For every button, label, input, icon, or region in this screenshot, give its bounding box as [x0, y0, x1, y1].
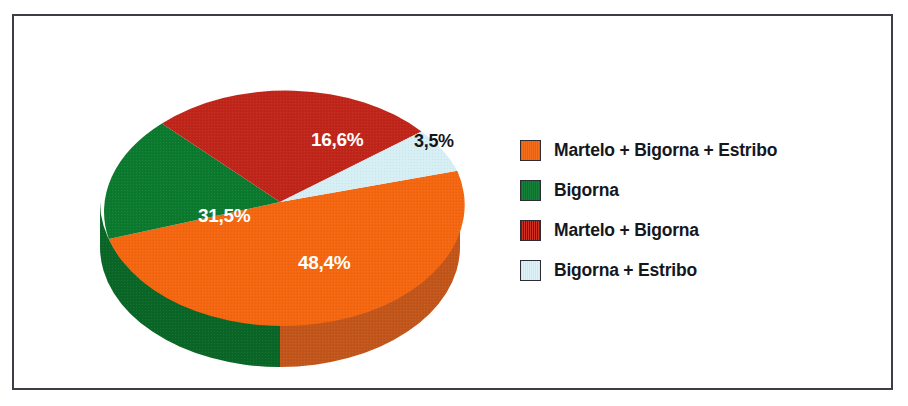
- legend-item-bigorna[interactable]: Bigorna: [520, 170, 880, 210]
- swatch-texture-orange: [521, 141, 540, 160]
- legend-item-bigorna-estribo[interactable]: Bigorna + Estribo: [520, 250, 880, 290]
- legend-item-martelo-bigorna-estribo[interactable]: Martelo + Bigorna + Estribo: [520, 130, 880, 170]
- legend-label-3: Bigorna + Estribo: [554, 260, 697, 281]
- chart-frame: 48,4% 31,5% 16,6% 3,5% Martelo + Bigorna…: [12, 14, 893, 390]
- screenshot-root: 48,4% 31,5% 16,6% 3,5% Martelo + Bigorna…: [0, 0, 908, 406]
- legend-swatch-lightblue: [520, 260, 541, 281]
- swatch-texture-lightblue: [521, 261, 540, 280]
- chart-legend: Martelo + Bigorna + Estribo Bigorna Mart…: [520, 130, 880, 290]
- legend-item-martelo-bigorna[interactable]: Martelo + Bigorna: [520, 210, 880, 250]
- legend-label-2: Martelo + Bigorna: [554, 220, 699, 241]
- pie-chart: 48,4% 31,5% 16,6% 3,5%: [76, 52, 476, 372]
- legend-label-0: Martelo + Bigorna + Estribo: [554, 140, 777, 161]
- swatch-texture-red: [521, 221, 540, 240]
- legend-swatch-red: [520, 220, 541, 241]
- swatch-texture-green: [521, 181, 540, 200]
- legend-swatch-green: [520, 180, 541, 201]
- legend-label-1: Bigorna: [554, 180, 619, 201]
- pie-chart-svg: [76, 52, 476, 372]
- legend-swatch-orange: [520, 140, 541, 161]
